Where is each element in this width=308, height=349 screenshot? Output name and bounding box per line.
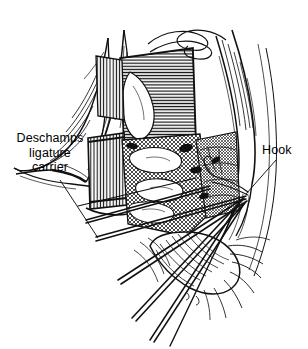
label-deschamps-ligature-carrier: Deschamps ligature carrier: [6, 131, 94, 175]
surgical-illustration-figure: Deschamps ligature carrier Hook: [0, 0, 308, 349]
muscle-block-center: [120, 48, 196, 146]
retractor-blade-center: [96, 56, 124, 120]
label-hook: Hook: [262, 143, 304, 158]
illustration-canvas: [0, 0, 308, 349]
